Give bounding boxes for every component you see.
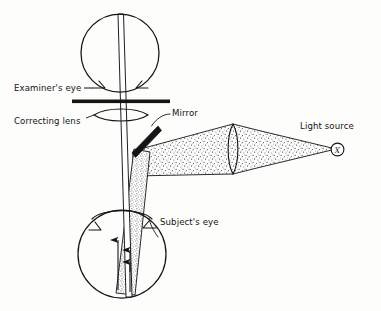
illumination-beam [133,124,336,176]
correcting-lens-leader [86,115,94,118]
svg-text:X: X [334,146,341,155]
label-subjects-eye: Subject's eye [160,218,219,227]
label-light-source: Light source [300,122,354,131]
lens-holder-bar [72,100,170,104]
ophthalmoscopy-diagram: X [0,0,381,311]
label-correcting-lens: Correcting lens [14,117,81,126]
label-examiners-eye: Examiner's eye [14,84,81,93]
label-mirror: Mirror [172,109,198,118]
reflected-beam [116,149,150,295]
light-source-marker: X [331,143,344,156]
diagram-canvas: X [0,0,381,311]
